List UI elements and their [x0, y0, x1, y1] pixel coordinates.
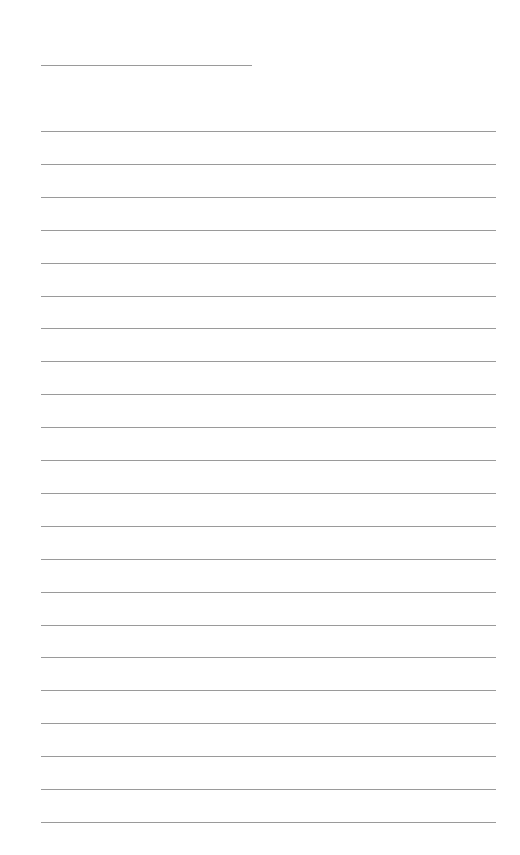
ruled-line — [41, 394, 496, 395]
ruled-line — [41, 822, 496, 823]
ruled-line — [41, 625, 496, 626]
ruled-line — [41, 559, 496, 560]
ruled-line — [41, 460, 496, 461]
ruled-line — [41, 526, 496, 527]
ruled-line — [41, 690, 496, 691]
ruled-line — [41, 328, 496, 329]
ruled-line — [41, 756, 496, 757]
ruled-line — [41, 427, 496, 428]
ruled-line — [41, 592, 496, 593]
ruled-line — [41, 197, 496, 198]
ruled-line — [41, 131, 496, 132]
ruled-line — [41, 230, 496, 231]
ruled-line — [41, 296, 496, 297]
ruled-line — [41, 657, 496, 658]
ruled-line — [41, 361, 496, 362]
ruled-line — [41, 263, 496, 264]
ruled-line — [41, 164, 496, 165]
ruled-line — [41, 789, 496, 790]
ruled-line — [41, 493, 496, 494]
ruled-line — [41, 723, 496, 724]
title-line — [41, 65, 252, 66]
lined-page — [0, 0, 520, 855]
